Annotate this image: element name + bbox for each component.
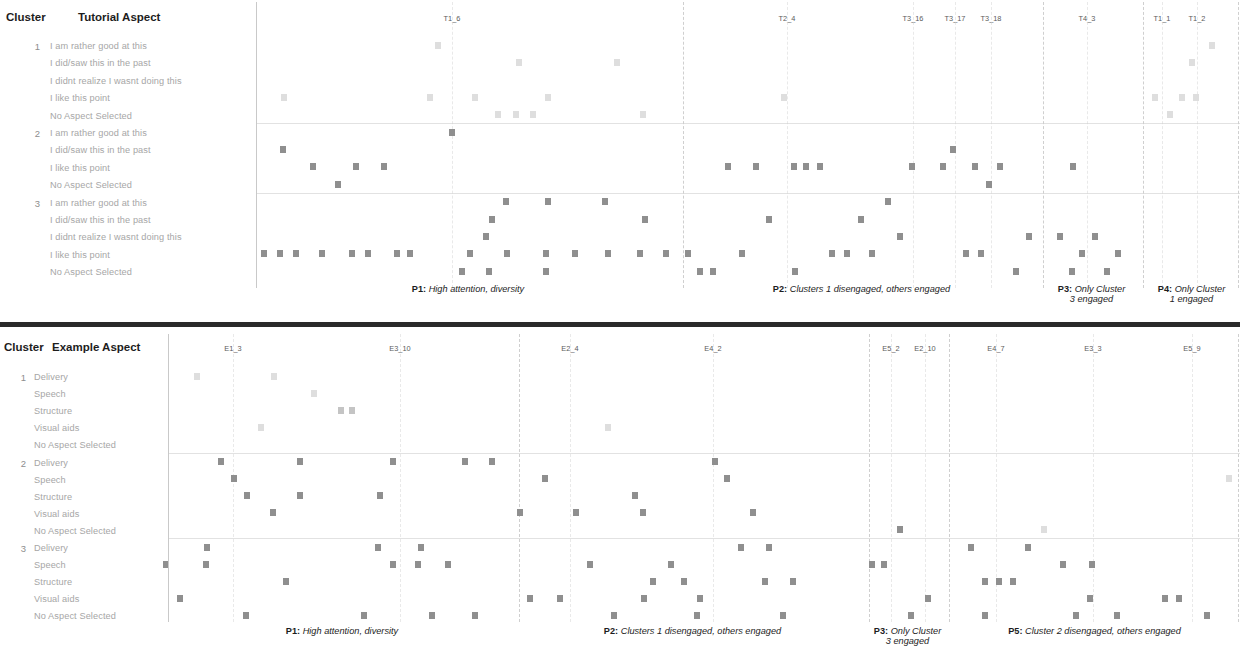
data-point-marker: [467, 250, 473, 257]
data-point-marker: [381, 163, 387, 170]
row-label: Visual aids: [34, 423, 79, 433]
row-label: Delivery: [34, 543, 68, 553]
data-point-marker: [724, 475, 730, 482]
data-point-marker: [641, 595, 647, 602]
column-guide-line: [713, 334, 715, 622]
cluster-separator-line: [168, 538, 1240, 539]
column-guide-line: [452, 2, 454, 288]
data-point-marker: [1057, 233, 1063, 240]
row-label: I didnt realize I wasnt doing this: [50, 76, 182, 86]
data-point-marker: [885, 198, 891, 205]
data-point-marker: [738, 544, 744, 551]
data-point-marker: [792, 268, 798, 275]
row-label: No Aspect Selected: [34, 611, 116, 621]
data-point-marker: [694, 612, 700, 619]
section-divider: [0, 322, 1240, 327]
row-label: Visual aids: [34, 509, 79, 519]
facet-caption: P3: Only Cluster3 engaged: [874, 626, 941, 646]
data-point-marker: [1179, 94, 1185, 101]
data-point-marker: [982, 578, 988, 585]
data-point-marker: [530, 111, 536, 118]
data-point-marker: [940, 163, 946, 170]
data-point-marker: [407, 250, 413, 257]
data-point-marker: [516, 59, 522, 66]
data-point-marker: [504, 250, 510, 257]
data-point-marker: [986, 181, 992, 188]
data-point-marker: [739, 250, 745, 257]
data-point-marker: [663, 250, 669, 257]
data-point-marker: [489, 216, 495, 223]
data-point-marker: [517, 509, 523, 516]
cluster-number-1: 1: [22, 41, 40, 52]
data-point-marker: [1010, 578, 1016, 585]
data-point-marker: [1114, 612, 1120, 619]
data-point-marker: [897, 233, 903, 240]
row-label: No Aspect Selected: [34, 526, 116, 536]
data-point-marker: [390, 458, 396, 465]
data-point-marker: [258, 424, 264, 431]
data-point-marker: [218, 458, 224, 465]
example-aspect-chart: Cluster Example Aspect 1DeliverySpeechSt…: [0, 330, 1240, 657]
data-point-marker: [283, 578, 289, 585]
data-point-marker: [602, 198, 608, 205]
data-point-marker: [753, 163, 759, 170]
data-point-marker: [710, 268, 716, 275]
data-point-marker: [545, 198, 551, 205]
row-label: No Aspect Selected: [34, 440, 116, 450]
plot-axis-line: [256, 2, 257, 288]
data-point-marker: [587, 561, 593, 568]
cluster-number-2: 2: [8, 458, 26, 469]
data-point-marker: [881, 561, 887, 568]
data-point-marker: [277, 250, 283, 257]
cluster-number-2: 2: [22, 128, 40, 139]
data-point-marker: [605, 250, 611, 257]
data-point-marker: [527, 595, 533, 602]
data-point-marker: [978, 250, 984, 257]
row-label: I am rather good at this: [50, 198, 147, 208]
column-guide-line: [1192, 334, 1194, 622]
row-label: Delivery: [34, 458, 68, 468]
data-point-marker: [1079, 250, 1085, 257]
data-point-marker: [697, 595, 703, 602]
data-point-marker: [1041, 526, 1047, 533]
cluster-separator-line: [256, 193, 1240, 194]
data-point-marker: [650, 578, 656, 585]
bottom-header-cluster: Cluster: [4, 341, 44, 353]
data-point-marker: [297, 492, 303, 499]
data-point-marker: [483, 233, 489, 240]
column-guide-line: [1087, 2, 1089, 288]
data-point-marker: [427, 94, 433, 101]
data-point-marker: [311, 390, 317, 397]
data-point-marker: [858, 216, 864, 223]
data-point-marker: [605, 424, 611, 431]
data-point-marker: [1092, 233, 1098, 240]
data-point-marker: [1152, 94, 1158, 101]
data-point-marker: [204, 544, 210, 551]
column-guide-line: [891, 334, 893, 622]
data-point-marker: [963, 250, 969, 257]
data-point-marker: [1167, 111, 1173, 118]
data-point-marker: [614, 59, 620, 66]
data-point-marker: [790, 578, 796, 585]
data-point-marker: [869, 561, 875, 568]
data-point-marker: [668, 561, 674, 568]
data-point-marker: [349, 407, 355, 414]
data-point-marker: [513, 111, 519, 118]
data-point-marker: [908, 612, 914, 619]
row-label: I didnt realize I wasnt doing this: [50, 232, 182, 242]
data-point-marker: [817, 163, 823, 170]
column-guide-line: [913, 2, 915, 288]
data-point-marker: [685, 250, 691, 257]
tutorial-aspect-chart: Cluster Tutorial Aspect 1I am rather goo…: [0, 0, 1240, 320]
data-point-marker: [982, 612, 988, 619]
facet-separator: [949, 334, 951, 622]
data-point-marker: [712, 458, 718, 465]
row-label: I like this point: [50, 250, 110, 260]
data-point-marker: [869, 250, 875, 257]
cluster-separator-line: [168, 453, 1240, 454]
data-point-marker: [972, 163, 978, 170]
facet-separator: [869, 334, 871, 622]
row-label: I did/saw this in the past: [50, 145, 151, 155]
facet-separator: [1143, 2, 1145, 288]
bottom-header-aspect: Example Aspect: [52, 341, 140, 353]
